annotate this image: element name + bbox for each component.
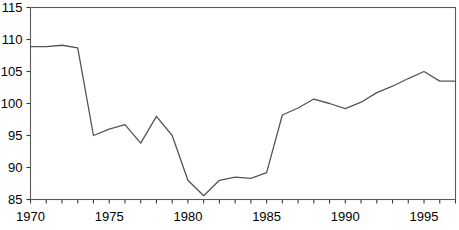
y-axis-tick-label: 105 [1,64,23,79]
x-axis-tick-label-group: 197019751980198519901995 [16,209,438,224]
plot-area-frame [31,8,456,200]
y-axis-tick-label: 85 [8,192,22,207]
y-axis-tick-label: 100 [1,96,23,111]
x-axis-tick-mark-group [31,200,456,204]
x-axis-tick-label: 1985 [252,209,281,224]
y-axis-tick-label: 115 [2,0,23,15]
x-axis-tick-label: 1970 [16,209,45,224]
y-axis-tick-label: 90 [8,160,22,175]
x-axis-tick-label: 1990 [331,209,360,224]
y-axis-tick-label: 110 [2,32,23,47]
y-axis-tick-mark-group [27,8,31,200]
x-axis-tick-label: 1980 [173,209,202,224]
y-axis-tick-label: 95 [8,128,22,143]
x-axis-tick-label: 1995 [410,209,439,224]
chart-canvas: 859095100105110115 197019751980198519901… [0,0,459,230]
x-axis-tick-label: 1975 [95,209,124,224]
y-axis-tick-label-group: 859095100105110115 [1,0,23,207]
line-chart-figure: 859095100105110115 197019751980198519901… [0,0,459,230]
data-series-line [31,45,456,195]
